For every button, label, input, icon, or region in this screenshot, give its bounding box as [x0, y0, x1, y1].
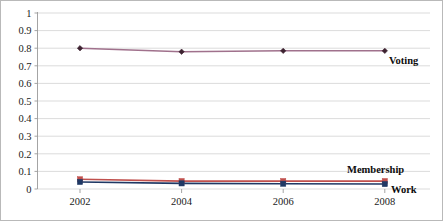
x-axis-tick-labels-group: 2002200420062008: [70, 196, 396, 207]
y-axis-tick-label: 0.5: [18, 96, 31, 107]
data-point-marker-voting-2002: [77, 46, 82, 51]
x-axis-tick-label-2004: 2004: [171, 196, 193, 207]
y-axis-tick-label: 0.3: [18, 131, 31, 142]
line-chart-plot: 00.10.20.30.40.50.60.70.80.91 2002200420…: [0, 0, 444, 222]
y-axis-tick-label: 0.9: [18, 25, 31, 36]
series-annotation-labels-group: VotingMembershipWork: [347, 55, 419, 195]
x-axis-tick-label-2008: 2008: [374, 196, 395, 207]
data-point-marker-voting-2004: [179, 49, 184, 54]
data-point-marker-voting-2008: [382, 48, 387, 53]
gridlines-group: [38, 13, 431, 189]
x-tick-marks-group: [80, 189, 385, 193]
series-lines-group: [80, 48, 385, 184]
series-line-membership: [80, 179, 385, 181]
y-axis-tick-labels-group: 00.10.20.30.40.50.60.70.80.91: [18, 8, 32, 195]
y-axis-tick-label: 0.8: [18, 43, 31, 54]
data-point-marker-work-2004: [179, 181, 184, 186]
series-annotation-work: Work: [391, 184, 417, 195]
series-annotation-membership: Membership: [347, 164, 404, 175]
y-axis-tick-label: 0.7: [18, 61, 31, 72]
x-axis-tick-label-2006: 2006: [273, 196, 294, 207]
y-axis-tick-label: 0: [26, 184, 31, 195]
series-line-work: [80, 182, 385, 184]
series-annotation-voting: Voting: [389, 55, 419, 66]
y-axis-tick-label: 0.6: [18, 78, 31, 89]
y-axis-tick-label: 0.2: [18, 149, 31, 160]
x-axis-tick-label-2002: 2002: [70, 196, 91, 207]
data-point-marker-work-2008: [382, 181, 387, 186]
chart-container: 00.10.20.30.40.50.60.70.80.91 2002200420…: [0, 0, 444, 222]
y-axis-tick-label: 0.4: [18, 113, 32, 124]
series-markers-group: [77, 46, 387, 187]
series-line-voting: [80, 48, 385, 52]
data-point-marker-voting-2006: [281, 48, 286, 53]
data-point-marker-work-2006: [281, 181, 286, 186]
y-axis-tick-label: 1: [26, 8, 31, 19]
y-axis-tick-label: 0.1: [18, 166, 31, 177]
data-point-marker-work-2002: [77, 179, 82, 184]
